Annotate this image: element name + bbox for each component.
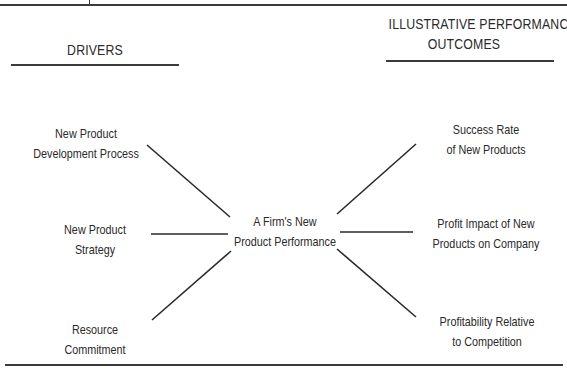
driver-resource-commitment: Resource Commitment bbox=[51, 320, 139, 360]
driver-development-process: New Product Development Process bbox=[33, 124, 139, 164]
driver-label-line2: Commitment bbox=[51, 340, 139, 360]
center-label-line2: Product Performance bbox=[231, 232, 338, 252]
bottom-rule bbox=[5, 364, 563, 366]
driver-label-line2: Development Process bbox=[33, 144, 139, 164]
outcome-success-rate: Success Rate of New Products bbox=[430, 120, 542, 160]
outcome-profit-impact: Profit Impact of New Products on Company bbox=[427, 214, 545, 254]
outcome-label-line1: Success Rate bbox=[430, 120, 542, 140]
outcome-profitability-relative: Profitability Relative to Competition bbox=[427, 312, 547, 352]
driver-strategy: New Product Strategy bbox=[51, 220, 139, 260]
connector-driver-resource bbox=[152, 251, 231, 320]
outcome-label-line1: Profit Impact of New bbox=[427, 214, 545, 234]
center-node: A Firm's New Product Performance bbox=[231, 212, 338, 252]
outcome-label-line1: Profitability Relative bbox=[427, 312, 547, 332]
outcome-label-line2: Products on Company bbox=[427, 234, 545, 254]
connector-outcome-profitability bbox=[337, 249, 416, 317]
outcome-label-line2: to Competition bbox=[427, 332, 547, 352]
driver-label-line1: New Product bbox=[51, 220, 139, 240]
connector-driver-process bbox=[147, 145, 230, 217]
driver-label-line2: Strategy bbox=[51, 240, 139, 260]
center-label-line1: A Firm's New bbox=[231, 212, 338, 232]
driver-label-line1: New Product bbox=[33, 124, 139, 144]
connector-outcome-success bbox=[337, 144, 416, 214]
driver-label-line1: Resource bbox=[51, 320, 139, 340]
outcome-label-line2: of New Products bbox=[430, 140, 542, 160]
